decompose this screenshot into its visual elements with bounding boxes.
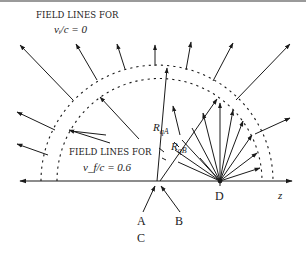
axis-label-z: z — [278, 189, 282, 201]
label-RqB-main: R — [171, 140, 178, 152]
top-title-line2: vᵢ/c = 0 — [54, 23, 87, 35]
transition-segments — [69, 97, 139, 143]
label-RqA-main: R — [153, 121, 160, 133]
point-label-B: B — [175, 214, 183, 229]
label-RqA-sub: qA — [160, 127, 169, 136]
label-RqA: RqA — [153, 121, 169, 136]
label-RqB: RqB — [171, 140, 187, 155]
point-label-A: A — [137, 214, 146, 229]
point-pointers — [143, 186, 180, 212]
outer-field-lines — [17, 42, 290, 155]
label-RqB-sub: qB — [178, 146, 187, 155]
point-label-C: C — [137, 231, 145, 246]
top-title-line1: FIELD LINES FOR — [36, 10, 119, 20]
inner-field-lines — [175, 103, 260, 181]
bottom-title-line2: v_f/c = 0.6 — [83, 161, 131, 173]
point-label-D: D — [215, 189, 224, 204]
bottom-title-line1: FIELD LINES FOR — [69, 147, 152, 157]
